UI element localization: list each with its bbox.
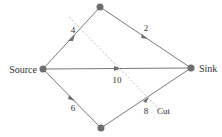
sink-label: Sink <box>199 63 217 74</box>
capacity-label-source-bottom: 6 <box>71 103 76 113</box>
node-top <box>97 4 104 11</box>
cut-line <box>69 17 163 113</box>
capacity-label-source-top: 4 <box>71 25 76 35</box>
source-label: Source <box>9 64 37 75</box>
capacity-label-top-sink: 2 <box>144 23 149 33</box>
arrow-icon-source-bottom <box>68 95 75 101</box>
capacity-label-source-sink: 10 <box>113 75 123 85</box>
arrow-icon-top-sink <box>141 34 148 39</box>
node-source <box>40 66 47 73</box>
node-sink <box>188 65 195 72</box>
node-bottom <box>98 125 105 132</box>
cut-label: Cut <box>157 106 171 116</box>
capacity-label-bottom-sink: 8 <box>144 106 149 116</box>
flow-network-diagram: Source Sink 4 2 10 6 8 Cut <box>0 0 222 137</box>
